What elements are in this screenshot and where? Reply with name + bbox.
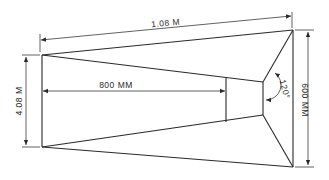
angle-label: 120° [278,78,293,100]
inner-bottom-taper [42,115,263,147]
right-height-label: 600 MM [300,83,310,117]
inner-length-label: 800 MM [99,80,133,90]
outer-outline [42,30,293,167]
inner-taper [42,30,293,167]
dimension-right: 600 MM [295,30,314,167]
top-length-label: 1.08 M [151,17,181,30]
top-edge [42,30,293,55]
bottom-edge [42,147,293,167]
left-height-label: 4.08 M [14,87,24,116]
angle-annotation: 120° [266,73,292,100]
angle-arc [266,73,281,100]
horn-drawing: 1.08 M 4.08 M 800 MM 600 MM 120° [0,0,329,180]
flare-bottom [263,115,293,167]
dimension-top: 1.08 M [40,12,292,52]
dimension-left: 4.08 M [14,55,40,147]
dimension-inner-length: 800 MM [43,80,225,91]
flare-top [263,30,293,82]
inner-top-taper [42,55,263,82]
